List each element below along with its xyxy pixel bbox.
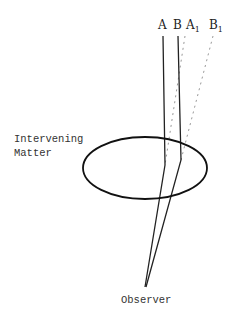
intervening-matter-label-line2: Matter	[14, 147, 52, 159]
intervening-matter-label-line1: Intervening	[14, 133, 83, 145]
apparent-ray-b1	[181, 36, 213, 160]
apparent-ray-a1	[165, 36, 185, 165]
label-b: B	[173, 18, 182, 32]
label-a1: A1	[185, 18, 200, 34]
intervening-matter-ellipse	[83, 137, 207, 199]
label-a: A	[157, 18, 167, 32]
gravitational-lensing-diagram: A B A1 B1 Intervening Matter Observer	[0, 0, 234, 317]
light-ray-a	[145, 36, 165, 287]
observer-label: Observer	[121, 294, 171, 306]
label-b1: B1	[209, 18, 223, 34]
